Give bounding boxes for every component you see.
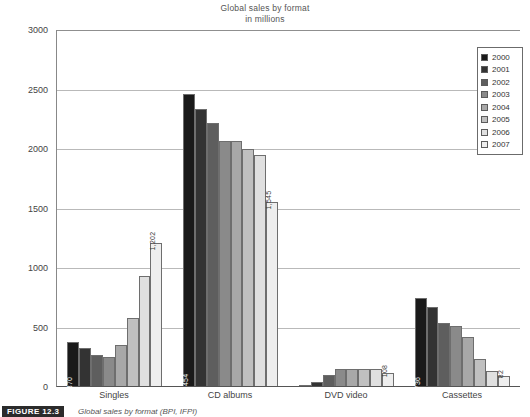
y-axis-ticks: 050010001500200025003000: [0, 30, 52, 387]
plot-area: 3701,2022,4541,54510873682: [56, 30, 520, 387]
chart-legend: 20002001200220032004200520062007: [477, 47, 523, 155]
legend-swatch: [481, 141, 488, 148]
bar[interactable]: 2,454: [183, 94, 195, 386]
bar-value-label: 1,545: [265, 191, 272, 210]
bar-group: 2,4541,545: [173, 30, 289, 386]
legend-swatch: [481, 104, 488, 111]
bar[interactable]: 1,545: [266, 202, 278, 386]
bar-group-bars: 3701,202: [67, 30, 162, 386]
bar[interactable]: 736: [415, 298, 427, 386]
bar[interactable]: [195, 109, 207, 386]
chart-title: Global sales by format in millions: [0, 3, 530, 25]
chart-title-line1: Global sales by format: [221, 3, 310, 13]
bar[interactable]: [139, 276, 151, 386]
legend-label: 2003: [492, 90, 510, 99]
bar[interactable]: [358, 369, 370, 386]
y-axis-tick-label: 2500: [0, 85, 48, 95]
bar[interactable]: 82: [498, 376, 510, 386]
bar[interactable]: [103, 357, 115, 386]
bar[interactable]: [474, 359, 486, 386]
legend-item[interactable]: 2007: [481, 139, 519, 152]
legend-item[interactable]: 2001: [481, 64, 519, 77]
bar-value-label: 108: [381, 365, 388, 378]
chart-subtitle: in millions: [0, 14, 530, 25]
legend-label: 2007: [492, 140, 510, 149]
bar-group-bars: 108: [299, 30, 394, 386]
bar[interactable]: 370: [67, 342, 79, 386]
bar[interactable]: [323, 375, 335, 386]
chart-container: Global sales by format in millions 05001…: [0, 0, 530, 417]
legend-item[interactable]: 2002: [481, 76, 519, 89]
figure-number: FIGURE 12.3: [2, 406, 64, 417]
bar[interactable]: [219, 141, 231, 386]
bar[interactable]: [231, 141, 243, 386]
bar-value-label: 370: [66, 377, 73, 390]
legend-swatch: [481, 116, 488, 123]
legend-swatch: [481, 91, 488, 98]
bar[interactable]: [438, 323, 450, 386]
figure-caption: FIGURE 12.3 Global sales by format (BPI,…: [0, 406, 530, 417]
bar[interactable]: [115, 345, 127, 386]
legend-label: 2006: [492, 128, 510, 137]
bar[interactable]: [299, 385, 311, 386]
bar-groups: 3701,2022,4541,54510873682: [57, 30, 520, 386]
bar[interactable]: [127, 318, 139, 386]
bar-group: 3701,202: [57, 30, 173, 386]
legend-item[interactable]: 2005: [481, 114, 519, 127]
y-axis-tick-label: 1500: [0, 204, 48, 214]
bar-group-bars: 2,4541,545: [183, 30, 278, 386]
bar[interactable]: [311, 382, 323, 386]
y-axis-tick-label: 0: [0, 382, 48, 392]
legend-item[interactable]: 2004: [481, 101, 519, 114]
bar[interactable]: [427, 307, 439, 386]
bar[interactable]: [346, 369, 358, 386]
y-axis-tick-label: 500: [0, 323, 48, 333]
legend-swatch: [481, 129, 488, 136]
legend-item[interactable]: 2000: [481, 51, 519, 64]
x-axis-labels: SinglesCD albumsDVD videoCassettes: [56, 390, 520, 406]
bar[interactable]: [91, 355, 103, 386]
x-axis-category-label: Cassettes: [404, 390, 520, 406]
legend-swatch: [481, 66, 488, 73]
bar[interactable]: [79, 348, 91, 386]
legend-label: 2001: [492, 65, 510, 74]
legend-label: 2000: [492, 53, 510, 62]
bar-value-label: 1,202: [149, 231, 156, 250]
bar[interactable]: [462, 337, 474, 386]
bar[interactable]: 108: [382, 373, 394, 386]
y-axis-tick-label: 3000: [0, 25, 48, 35]
bar-value-label: 736: [414, 377, 421, 390]
y-axis-tick-label: 1000: [0, 263, 48, 273]
legend-item[interactable]: 2003: [481, 89, 519, 102]
bar-value-label: 82: [497, 370, 504, 378]
bar[interactable]: [450, 326, 462, 386]
x-axis-category-label: CD albums: [172, 390, 288, 406]
x-axis-category-label: DVD video: [288, 390, 404, 406]
bar[interactable]: [242, 149, 254, 386]
legend-swatch: [481, 79, 488, 86]
bar[interactable]: 1,202: [150, 243, 162, 386]
bar-group: 108: [289, 30, 405, 386]
legend-label: 2002: [492, 78, 510, 87]
x-axis-category-label: Singles: [56, 390, 172, 406]
legend-label: 2005: [492, 115, 510, 124]
bar[interactable]: [207, 123, 219, 386]
bar[interactable]: [335, 369, 347, 386]
y-axis-tick-label: 2000: [0, 144, 48, 154]
legend-item[interactable]: 2006: [481, 126, 519, 139]
legend-label: 2004: [492, 103, 510, 112]
figure-caption-text: Global sales by format (BPI, IFPI): [78, 407, 197, 416]
legend-swatch: [481, 54, 488, 61]
bar[interactable]: [486, 371, 498, 386]
